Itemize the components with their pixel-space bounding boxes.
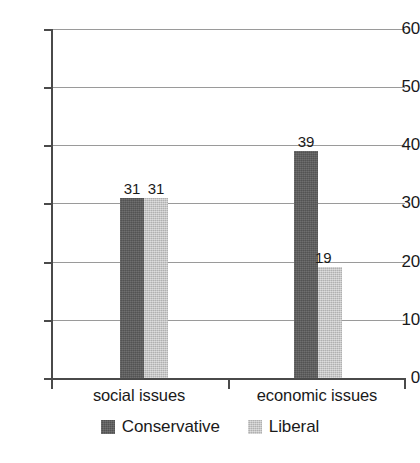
- category-label-economic-issues: economic issues: [243, 386, 391, 404]
- bar-chart: 60 50 40 30 20 10 0 31 31 39 19 social i…: [0, 0, 420, 463]
- data-label-conservative-economic-issues: 39: [286, 134, 326, 149]
- chart-legend: Conservative Liberal: [0, 418, 420, 436]
- legend-label-conservative: Conservative: [122, 418, 220, 436]
- legend-swatch-liberal-icon: [248, 420, 262, 434]
- plot-area: 60 50 40 30 20 10 0 31 31 39 19 social i…: [0, 0, 420, 400]
- bars-layer: [0, 0, 420, 378]
- legend-item-conservative[interactable]: Conservative: [101, 418, 220, 436]
- category-tick-left: [51, 378, 53, 389]
- bar-liberal-social-issues[interactable]: [144, 198, 168, 378]
- category-tick-middle: [228, 378, 230, 389]
- legend-label-liberal: Liberal: [269, 418, 319, 436]
- data-label-liberal-social-issues: 31: [136, 181, 176, 196]
- legend-swatch-conservative-icon: [101, 420, 115, 434]
- bar-liberal-economic-issues[interactable]: [318, 267, 342, 378]
- bar-conservative-social-issues[interactable]: [120, 198, 144, 378]
- category-label-social-issues: social issues: [79, 386, 199, 404]
- legend-item-liberal[interactable]: Liberal: [248, 418, 319, 436]
- data-label-liberal-economic-issues: 19: [315, 250, 355, 265]
- category-tick-right: [404, 378, 406, 389]
